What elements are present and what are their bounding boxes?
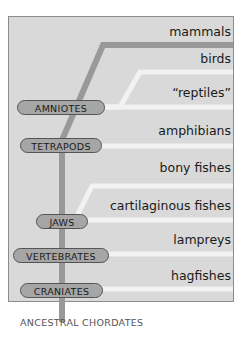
taxon-reptiles: “reptiles” [172, 85, 231, 100]
taxon-birds: birds [200, 51, 231, 66]
taxon-mammals: mammals [169, 24, 231, 39]
node-vertebrates: VERTEBRATES [13, 248, 109, 263]
node-tetrapods: TETRAPODS [20, 138, 102, 153]
taxon-cartilaginous-fishes: cartilaginous fishes [110, 198, 231, 213]
taxon-bony-fishes: bony fishes [160, 160, 231, 175]
taxon-lampreys: lampreys [173, 232, 231, 247]
taxon-amphibians: amphibians [158, 123, 231, 138]
taxon-hagfishes: hagfishes [171, 268, 231, 283]
node-amniotes: AMNIOTES [17, 100, 105, 115]
root-label: ANCESTRAL CHORDATES [20, 317, 143, 328]
node-craniates: CRANIATES [20, 283, 103, 298]
node-jaws: JAWS [36, 214, 88, 229]
